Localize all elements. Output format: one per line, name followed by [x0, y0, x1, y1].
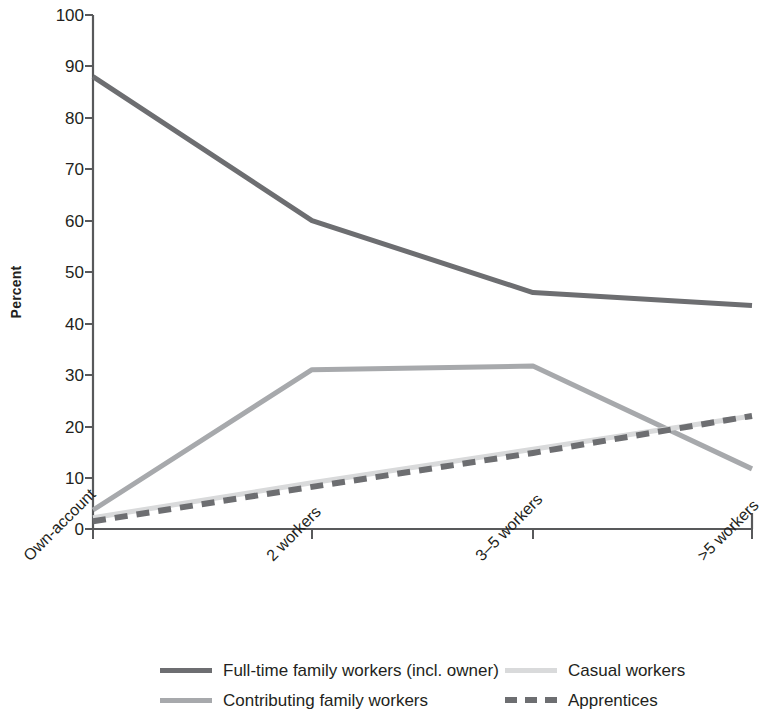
legend-label-contributing-family-workers: Contributing family workers [223, 692, 428, 709]
series-line-contributing-family-workers [93, 366, 752, 510]
legend-swatch-full-time-family-workers [160, 662, 212, 678]
legend-item-casual-workers: Casual workers [505, 657, 685, 683]
legend-swatch-contributing-family-workers [160, 692, 212, 708]
series-line-full-time-family-workers-incl-owner [93, 77, 752, 306]
y-axis-ticks [85, 15, 93, 478]
legend-item-apprentices: Apprentices [505, 687, 658, 713]
legend-item-contributing-family-workers: Contributing family workers [160, 687, 428, 713]
legend-label-full-time-family-workers: Full-time family workers (incl. owner) [223, 662, 499, 679]
series-line-casual-workers [93, 416, 752, 518]
legend-swatch-casual-workers [505, 662, 557, 678]
legend-swatch-apprentices [505, 692, 557, 708]
legend-label-apprentices: Apprentices [568, 692, 658, 709]
legend-label-casual-workers: Casual workers [568, 662, 685, 679]
data-series-layer [93, 77, 752, 522]
chart-legend: Full-time family workers (incl. owner) C… [160, 655, 760, 717]
x-axis-ticks [93, 529, 752, 539]
legend-item-full-time-family-workers: Full-time family workers (incl. owner) [160, 657, 499, 683]
